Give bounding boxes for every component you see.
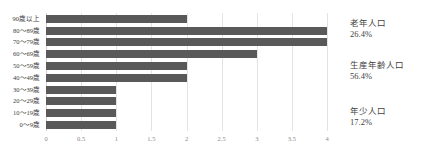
bar-row [46,60,327,72]
bar [46,50,257,58]
chart-page: 90歳以上80～89歳70～79歳60～69歳50～59歳40～49歳30～39… [0,0,424,151]
y-axis-label: 90歳以上 [0,13,43,25]
bar [46,62,187,70]
annotations-panel: 老年人口 26.4% 生産年齢人口 56.4% 年少人口 17.2% [350,12,424,147]
x-axis-tick-label: 1 [115,134,118,144]
x-axis-tick-label: 0.5 [77,134,85,144]
annotation-working-age-value: 56.4% [350,71,424,82]
annotation-elderly-label: 老年人口 [350,18,424,29]
x-axis-tick-label: 0 [44,134,47,144]
bar [46,27,327,35]
y-axis-label: 30～39歳 [0,84,43,96]
bar-row [46,72,327,84]
annotation-youth: 年少人口 17.2% [350,106,424,128]
bar [46,38,327,46]
bar-row [46,13,327,25]
x-axis-tick-label: 3 [255,134,258,144]
annotation-working-age-label: 生産年齢人口 [350,60,424,71]
annotation-elderly-value: 26.4% [350,29,424,40]
y-axis-label: 0～9歳 [0,119,43,131]
annotation-elderly: 老年人口 26.4% [350,18,424,40]
bar-rows [46,13,327,131]
bar [46,121,116,129]
annotation-youth-label: 年少人口 [350,106,424,117]
bar-row [46,107,327,119]
bar-row [46,84,327,96]
chart-title [0,0,340,2]
bar [46,97,116,105]
gridline [327,13,328,131]
bar-row [46,37,327,49]
bar-row [46,119,327,131]
y-axis-labels: 90歳以上80～89歳70～79歳60～69歳50～59歳40～49歳30～39… [0,13,43,131]
bar-row [46,48,327,60]
bar [46,109,116,117]
bar-row [46,25,327,37]
x-axis-tick-label: 3.5 [288,134,296,144]
y-axis-label: 80～89歳 [0,25,43,37]
y-axis-label: 20～29歳 [0,96,43,108]
x-axis-tick-label: 2.5 [218,134,226,144]
x-axis-tick-label: 4 [325,134,328,144]
bar-row [46,96,327,108]
bar [46,15,187,23]
x-axis-tick-label: 2 [185,134,188,144]
bar [46,74,187,82]
annotation-youth-value: 17.2% [350,117,424,128]
y-axis-label: 40～49歳 [0,72,43,84]
y-axis-label: 10～19歳 [0,107,43,119]
x-axis-tick-label: 1.5 [147,134,155,144]
y-axis-label: 60～69歳 [0,48,43,60]
plot-area: 90歳以上80～89歳70～79歳60～69歳50～59歳40～49歳30～39… [0,12,340,151]
bar [46,86,116,94]
x-axis-tick-labels: 00.511.522.533.54 [46,134,327,146]
bars-canvas [46,13,327,131]
annotation-working-age: 生産年齢人口 56.4% [350,60,424,82]
y-axis-label: 70～79歳 [0,37,43,49]
y-axis-label: 50～59歳 [0,60,43,72]
